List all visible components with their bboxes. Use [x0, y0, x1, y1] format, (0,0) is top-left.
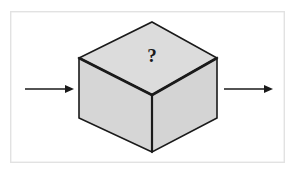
black-box-diagram-canvas: ?: [0, 0, 295, 176]
cube-question-mark-label: ?: [147, 45, 157, 66]
diagram-svg: ?: [0, 0, 295, 176]
